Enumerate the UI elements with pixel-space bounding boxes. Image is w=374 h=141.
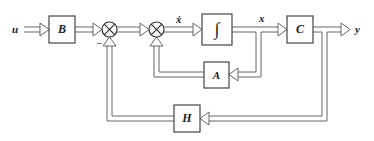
wire-c-to-y (313, 23, 350, 36)
signal-label-x-dot: ẋ (176, 14, 182, 25)
wire-sum2-to-integrator (163, 23, 202, 36)
wire-x-to-a (229, 32, 261, 81)
signal-label-x: x (259, 13, 265, 24)
wire-b-to-sum1 (75, 23, 102, 36)
summing-junction-1 (102, 22, 117, 37)
wire-u-to-b (24, 23, 49, 36)
signal-label-u: u (12, 24, 18, 35)
block-c-label: C (287, 16, 313, 43)
block-h-label: H (174, 105, 200, 132)
summing-junction-2 (149, 22, 164, 37)
wire-integrator-to-c (232, 23, 287, 36)
block-diagram: .w { fill:none; stroke:#666; stroke-widt… (0, 0, 374, 141)
integrator-symbol: ∫ (202, 14, 232, 45)
wire-sum1-to-sum2 (116, 23, 149, 36)
wire-h-to-sum1 (103, 37, 174, 121)
wire-a-to-sum2 (150, 37, 204, 77)
block-b-label: B (49, 16, 75, 43)
block-a-label: A (204, 62, 229, 88)
signal-label-y: y (355, 24, 360, 35)
minus-sign: − (96, 38, 102, 49)
